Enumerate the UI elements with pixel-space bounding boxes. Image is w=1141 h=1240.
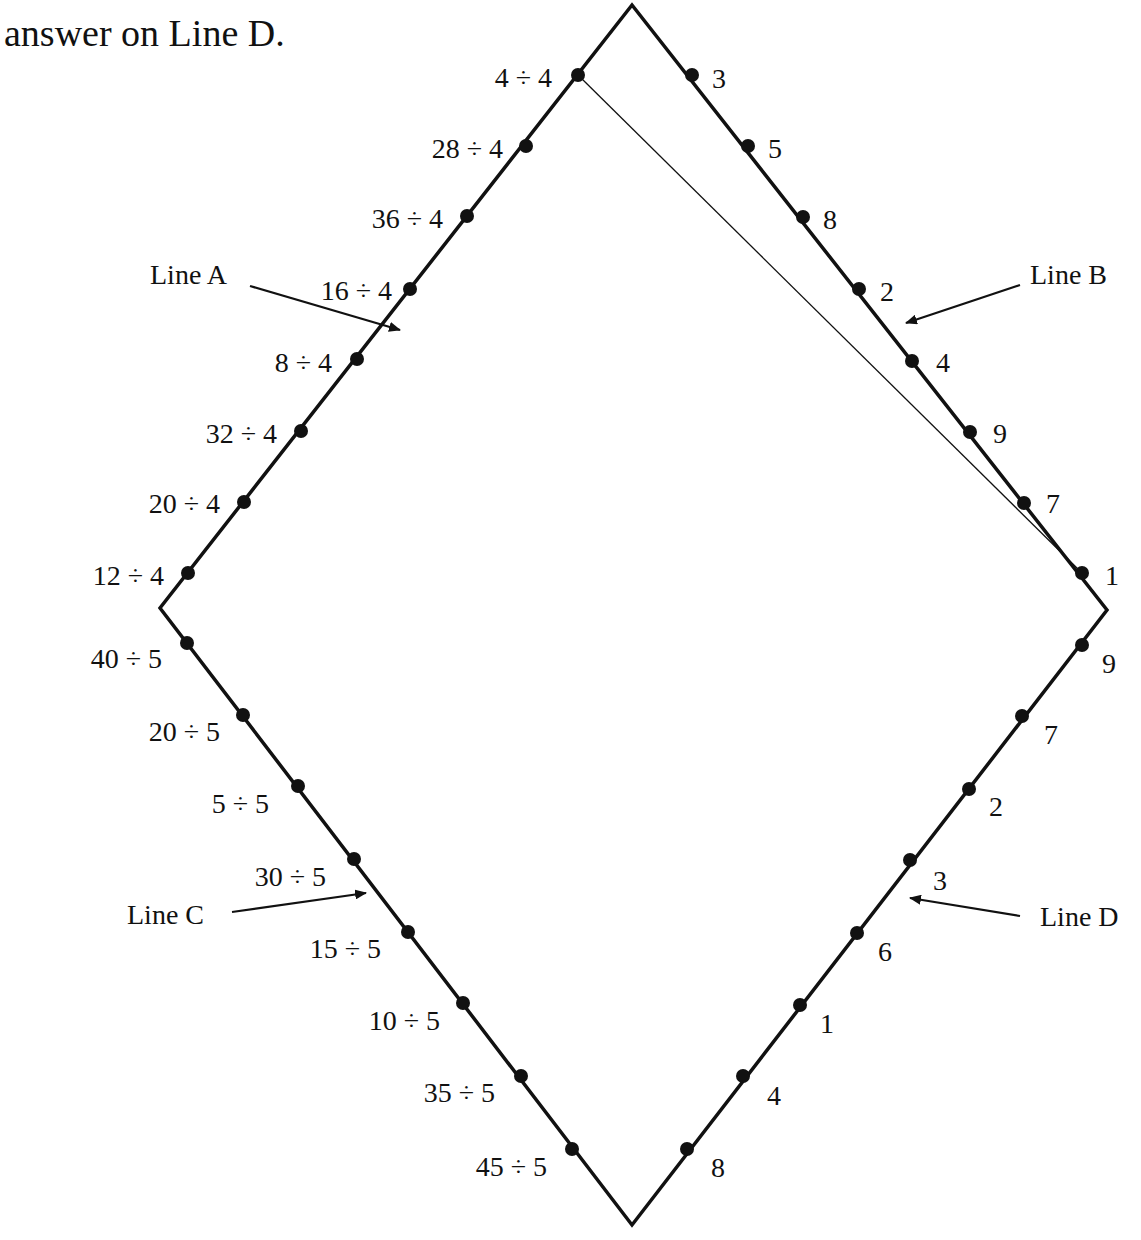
lines-layer: Line A4 ÷ 428 ÷ 436 ÷ 416 ÷ 48 ÷ 432 ÷ 4… xyxy=(91,62,1119,1183)
dot-icon[interactable] xyxy=(850,926,864,940)
point-label: 7 xyxy=(1044,719,1058,750)
dot-icon[interactable] xyxy=(962,782,976,796)
dot-icon[interactable] xyxy=(181,566,195,580)
point-label: 4 xyxy=(936,347,950,378)
point-label: 40 ÷ 5 xyxy=(91,643,162,674)
point-label: 32 ÷ 4 xyxy=(206,418,277,449)
point-label: 4 ÷ 4 xyxy=(495,62,552,93)
dot-icon[interactable] xyxy=(852,282,866,296)
dot-icon[interactable] xyxy=(963,425,977,439)
point-label: 16 ÷ 4 xyxy=(321,275,392,306)
point-item[interactable]: 32 ÷ 4 xyxy=(206,418,308,449)
point-label: 2 xyxy=(989,791,1003,822)
point-item[interactable]: 36 ÷ 4 xyxy=(372,203,474,234)
line-c-group: Line C40 ÷ 520 ÷ 55 ÷ 530 ÷ 515 ÷ 510 ÷ … xyxy=(91,636,579,1182)
line-c-arrow-icon xyxy=(232,893,366,912)
dot-icon[interactable] xyxy=(350,352,364,366)
dot-icon[interactable] xyxy=(347,852,361,866)
diamond-outline xyxy=(160,5,1107,1225)
point-item[interactable]: 7 xyxy=(1015,709,1058,750)
point-item[interactable]: 3 xyxy=(903,853,947,896)
point-item[interactable]: 2 xyxy=(852,276,894,307)
dot-icon[interactable] xyxy=(736,1069,750,1083)
point-item[interactable]: 5 xyxy=(741,133,782,164)
point-label: 8 xyxy=(823,204,837,235)
point-item[interactable]: 3 xyxy=(685,63,726,94)
line-b-group: Line B35824971 xyxy=(685,63,1119,591)
point-item[interactable]: 15 ÷ 5 xyxy=(310,925,415,964)
point-item[interactable]: 9 xyxy=(1075,638,1116,679)
point-label: 30 ÷ 5 xyxy=(255,861,326,892)
point-label: 8 xyxy=(711,1152,725,1183)
dot-icon[interactable] xyxy=(180,636,194,650)
point-label: 3 xyxy=(712,63,726,94)
point-label: 15 ÷ 5 xyxy=(310,933,381,964)
point-label: 9 xyxy=(993,418,1007,449)
dot-icon[interactable] xyxy=(294,424,308,438)
dot-icon[interactable] xyxy=(403,282,417,296)
point-item[interactable]: 4 xyxy=(905,347,950,378)
line-d-group: Line D97236148 xyxy=(680,638,1119,1183)
point-item[interactable]: 10 ÷ 5 xyxy=(369,996,470,1036)
point-item[interactable]: 40 ÷ 5 xyxy=(91,636,194,674)
point-item[interactable]: 4 ÷ 4 xyxy=(495,62,585,93)
line-a-group: Line A4 ÷ 428 ÷ 436 ÷ 416 ÷ 48 ÷ 432 ÷ 4… xyxy=(93,62,585,591)
point-label: 20 ÷ 4 xyxy=(149,488,220,519)
dot-icon[interactable] xyxy=(236,708,250,722)
dot-icon[interactable] xyxy=(1015,709,1029,723)
dot-icon[interactable] xyxy=(1075,566,1089,580)
point-item[interactable]: 1 xyxy=(793,998,834,1039)
point-item[interactable]: 4 xyxy=(736,1069,781,1111)
point-item[interactable]: 20 ÷ 5 xyxy=(149,708,250,747)
point-item[interactable]: 12 ÷ 4 xyxy=(93,560,195,591)
instruction-text: answer on Line D. xyxy=(4,14,285,52)
point-label: 45 ÷ 5 xyxy=(476,1151,547,1182)
worksheet: answer on Line D. Line A4 ÷ 428 ÷ 436 ÷ … xyxy=(0,0,1141,1240)
point-item[interactable]: 5 ÷ 5 xyxy=(212,779,305,819)
dot-icon[interactable] xyxy=(565,1142,579,1156)
point-item[interactable]: 20 ÷ 4 xyxy=(149,488,251,519)
point-item[interactable]: 16 ÷ 4 xyxy=(321,275,417,306)
point-item[interactable]: 1 xyxy=(1075,560,1119,591)
point-label: 4 xyxy=(767,1080,781,1111)
point-label: 36 ÷ 4 xyxy=(372,203,443,234)
dot-icon[interactable] xyxy=(401,925,415,939)
point-item[interactable]: 2 xyxy=(962,782,1003,822)
point-item[interactable]: 45 ÷ 5 xyxy=(476,1142,579,1182)
dot-icon[interactable] xyxy=(796,210,810,224)
dot-icon[interactable] xyxy=(793,998,807,1012)
point-item[interactable]: 6 xyxy=(850,926,892,967)
point-item[interactable]: 8 xyxy=(796,204,837,235)
dot-icon[interactable] xyxy=(685,68,699,82)
line-b-label: Line B xyxy=(1030,259,1107,290)
point-label: 1 xyxy=(1105,560,1119,591)
dot-icon[interactable] xyxy=(680,1142,694,1156)
point-item[interactable]: 35 ÷ 5 xyxy=(424,1069,528,1108)
dot-icon[interactable] xyxy=(514,1069,528,1083)
point-item[interactable]: 30 ÷ 5 xyxy=(255,852,361,892)
dot-icon[interactable] xyxy=(741,139,755,153)
point-label: 12 ÷ 4 xyxy=(93,560,164,591)
dot-icon[interactable] xyxy=(1075,638,1089,652)
line-d-arrow-icon xyxy=(910,898,1020,916)
line-b-arrow-icon xyxy=(906,285,1020,323)
dot-icon[interactable] xyxy=(456,996,470,1010)
dot-icon[interactable] xyxy=(903,853,917,867)
line-c-label: Line C xyxy=(127,899,204,930)
dot-icon[interactable] xyxy=(905,354,919,368)
point-label: 28 ÷ 4 xyxy=(432,133,503,164)
point-label: 5 xyxy=(768,133,782,164)
point-label: 1 xyxy=(820,1008,834,1039)
dot-icon[interactable] xyxy=(460,209,474,223)
point-label: 8 ÷ 4 xyxy=(275,347,332,378)
dot-icon[interactable] xyxy=(291,779,305,793)
dot-icon[interactable] xyxy=(519,139,533,153)
point-label: 7 xyxy=(1046,488,1060,519)
point-item[interactable]: 8 xyxy=(680,1142,725,1183)
dot-icon[interactable] xyxy=(571,68,585,82)
point-label: 20 ÷ 5 xyxy=(149,716,220,747)
dot-icon[interactable] xyxy=(1017,496,1031,510)
point-label: 6 xyxy=(878,936,892,967)
dot-icon[interactable] xyxy=(237,495,251,509)
point-item[interactable]: 9 xyxy=(963,418,1007,449)
